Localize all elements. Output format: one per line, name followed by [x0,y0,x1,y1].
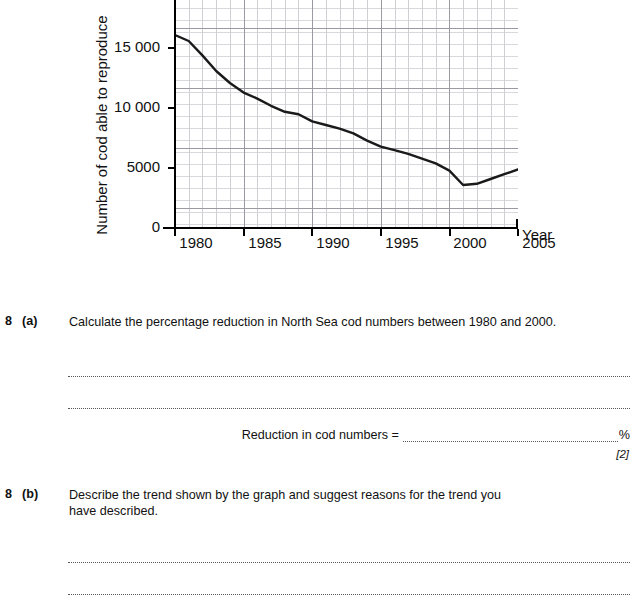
x-tick-1985 [243,229,245,236]
data-series-line [175,0,518,228]
x-tick-label-1990: 1990 [316,234,349,251]
x-tick-1990 [311,229,313,236]
x-tick-label-1995: 1995 [385,234,418,251]
y-axis-title-text: Number of cod able to reproduce [93,15,110,234]
answer-result-label-8a: Reduction in cod numbers = [242,428,403,442]
plot-area [175,0,518,228]
x-axis-line [163,227,518,229]
x-axis-title: Year [522,226,552,243]
marks-8a: [2] [616,448,629,460]
cod-population-chart: Number of cod able to reproduce 15 000 1… [0,0,633,282]
answer-line-8a-2[interactable] [68,396,630,409]
question-8a-part: (a) [22,314,37,328]
x-tick-2005 [517,229,519,236]
answer-line-8a-1[interactable] [68,364,630,377]
x-tick-1980 [174,229,176,236]
x-axis-end-cap [516,219,518,229]
answer-line-8b-2[interactable] [68,582,630,595]
answer-result-unit-8a: % [618,428,630,442]
x-tick-label-1980: 1980 [179,234,212,251]
x-tick-2000 [449,229,451,236]
y-tick-10000 [168,107,175,109]
y-tick-5000 [168,167,175,169]
y-axis-line [174,0,176,229]
question-8a-text: Calculate the percentage reduction in No… [69,314,609,330]
x-tick-label-2000: 2000 [453,234,486,251]
question-8b-text: Describe the trend shown by the graph an… [69,487,529,519]
answer-line-8b-1[interactable] [68,550,630,563]
answer-result-input-8a[interactable] [403,429,618,442]
answer-result-row-8a: Reduction in cod numbers = % [68,428,630,442]
y-tick-15000 [168,47,175,49]
question-8b-number: 8 [5,487,12,501]
y-axis-title: Number of cod able to reproduce [90,0,112,250]
question-8b-part: (b) [22,487,38,501]
x-tick-label-1985: 1985 [248,234,281,251]
x-tick-1995 [380,229,382,236]
question-8a-number: 8 [5,314,12,328]
